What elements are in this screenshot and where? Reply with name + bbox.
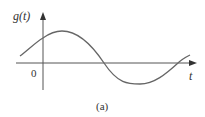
origin-label: 0 (31, 68, 37, 79)
signal-curve (20, 31, 190, 84)
x-axis-label: t (189, 70, 192, 82)
t-axis-arrow-icon (189, 60, 197, 66)
figure-caption: (a) (96, 101, 108, 112)
signal-figure: g(t) t 0 (a) (0, 0, 205, 117)
y-axis-label: g(t) (13, 10, 30, 22)
g-axis-arrow-icon (40, 12, 46, 20)
